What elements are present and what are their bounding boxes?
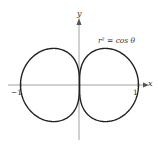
x-axis-label: x bbox=[148, 80, 153, 88]
y-axis-arrow-icon bbox=[77, 18, 82, 25]
y-axis-label: y bbox=[77, 10, 82, 18]
tick-label-neg-one: −1 bbox=[11, 89, 22, 97]
tick-label-pos-one: 1 bbox=[133, 89, 138, 97]
equation-label: r² = cos θ bbox=[98, 37, 135, 45]
polar-plot bbox=[0, 0, 158, 147]
